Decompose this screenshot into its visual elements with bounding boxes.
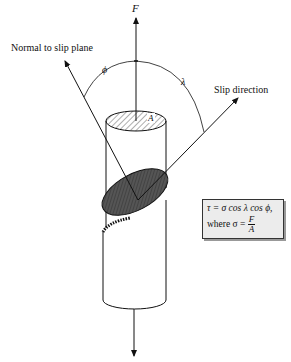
area-label: A [147,113,155,123]
fraction-denominator: A [248,225,256,234]
lower-cylinder [103,200,166,309]
phi-arc [84,61,136,97]
phi-label: ϕ [102,64,107,75]
formula-where: where σ = [207,219,248,229]
slip-diagram [0,0,291,362]
formula-line1: τ = σ cos λ cos ϕ, [207,202,279,215]
slip-direction-label: Slip direction [214,84,268,95]
formula-fraction: F A [248,215,256,234]
normal-label: Normal to slip plane [11,42,93,53]
lambda-label: λ [181,76,185,87]
formula-box: τ = σ cos λ cos ϕ, where σ = F A [202,199,284,239]
formula-line2: where σ = F A [207,215,279,234]
force-label: F [132,2,139,14]
